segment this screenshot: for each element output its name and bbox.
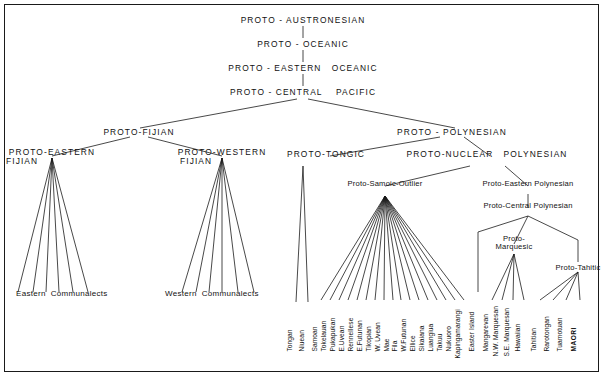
leaf-nukuoro: Nukuoro [446,326,453,352]
label-eastern-communalects: Eastern Communalects [16,290,108,299]
node-proto-tongic: PROTO-TONGIC [287,150,365,159]
leaf-nw-marquesan: N.W. Marquesan [493,306,500,357]
leaf-mangarevan: Mangarevan [483,314,490,352]
node-proto-eastern-oceanic: PROTO - EASTERN OCEANIC [228,64,377,73]
leaf-w-futunan: W.Futunan [401,319,408,352]
leaf-ellice: Ellice [410,335,417,351]
node-proto-marquesic: Proto- Marquesic [484,235,544,251]
tree-edges [0,0,603,377]
leaf-rarotongan: Rarotongan [544,316,551,351]
leaf-se-marquesan: S.E. Marquesan [504,308,511,357]
leaf-niuean: Niuean [299,330,306,352]
leaf-tokelauan: Tokelauan [321,321,328,352]
leaf-e-uvean: E.Uvean [339,326,346,352]
node-proto-oceanic: PROTO - OCEANIC [257,40,349,49]
leaf-e-futunan: E.Futunan [357,320,364,351]
leaf-easter-island: Easter Island [469,312,476,352]
leaf-samoan: Samoan [312,326,319,351]
leaf-kapingamarangi: Kapingamarangi [455,309,462,358]
leaf-tongan: Tongan [287,329,294,351]
node-proto-polynesian: PROTO - POLYNESIAN [397,128,507,137]
node-proto-tahitic: Proto-Tahitic [556,264,601,272]
leaf-maori: MAORI [571,327,578,351]
node-proto-western-fijian: PROTO-WESTERN FIJIAN [172,148,272,166]
leaf-luangiua: Luangiua [428,324,435,352]
leaf-sikaiana: Sikaiana [419,326,426,352]
leaf-tikopian: Tikopian [366,326,373,351]
leaf-fila: Fila [392,341,399,352]
node-proto-eastern-fijian-line2: FIJIAN [4,157,100,166]
node-proto-western-fijian-line2: FIJIAN [172,157,272,166]
node-proto-eastern-fijian: PROTO-EASTERN FIJIAN [4,148,100,166]
leaf-hawaiian: Hawaiian [515,324,522,352]
node-proto-central-pacific: PROTO - CENTRAL PACIFIC [230,88,376,97]
node-proto-austronesian: PROTO - AUSTRONESIAN [241,16,366,25]
leaf-pukapukan: Pukapukan [330,318,337,352]
node-proto-eastern-polynesian: Proto-Eastern Polynesian [483,180,574,188]
leaf-rennellese: Rennellese [348,318,355,352]
node-proto-nuclear-polynesian: PROTO-NUCLEAR POLYNESIAN [407,150,568,159]
leaf-takuu: Takuu [437,333,444,351]
language-tree-diagram: PROTO - AUSTRONESIAN PROTO - OCEANIC PRO… [0,0,603,377]
label-western-communalects: Western Communalects [165,290,259,299]
node-proto-marquesic-line2: Marquesic [484,243,544,251]
leaf-tahitian: Tahitian [531,328,538,352]
node-proto-central-polynesian: Proto-Central Polynesian [483,202,572,210]
node-proto-fijian: PROTO-FIJIAN [103,128,174,137]
leaf-tuamotuan: Tuamotuan [557,318,564,352]
leaf-w-uvean: W. Uvean [375,322,382,351]
node-proto-samoic-outlier: Proto-Samoic-Outlier [348,180,423,188]
leaf-mae: Mae [384,338,391,351]
